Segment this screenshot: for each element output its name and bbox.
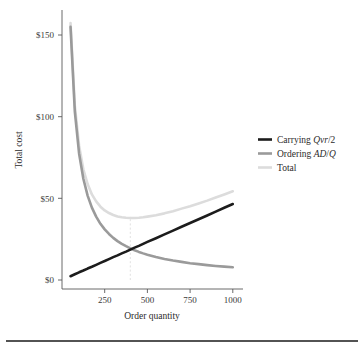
legend-label-ordering: Ordering AD/Q (277, 149, 336, 159)
y-tick-label-50: $50 (41, 194, 55, 204)
eoq-cost-chart: $0 $50 $100 $150 250 500 750 1000 Order … (0, 0, 364, 349)
x-tick-label-750: 750 (183, 295, 197, 305)
y-axis-title: Total cost (14, 131, 24, 168)
y-tick-label-100: $100 (36, 112, 55, 122)
y-tick-label-150: $150 (36, 30, 55, 40)
x-tick-label-250: 250 (98, 295, 112, 305)
x-tick-label-500: 500 (141, 295, 155, 305)
chart-figure: $0 $50 $100 $150 250 500 750 1000 Order … (0, 0, 364, 349)
x-tick-label-1000: 1000 (224, 295, 243, 305)
y-tick-label-0: $0 (45, 275, 55, 285)
chart-background (0, 0, 364, 349)
x-axis-title: Order quantity (124, 311, 180, 321)
legend-label-carrying: Carrying Qvr/2 (277, 135, 336, 145)
legend-label-total: Total (277, 163, 297, 173)
